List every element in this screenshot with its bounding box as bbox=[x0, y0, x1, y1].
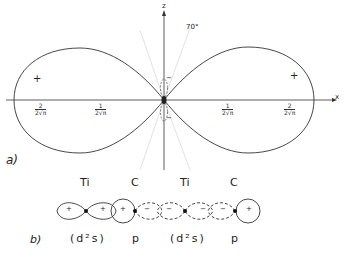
atom-label: C bbox=[131, 176, 139, 189]
tick-label: 22√π bbox=[284, 103, 295, 116]
nucleus bbox=[162, 96, 167, 104]
left-lobe bbox=[14, 48, 164, 153]
tick-label: 12√π bbox=[222, 103, 233, 116]
lobe-sign: + bbox=[120, 205, 126, 213]
x-axis-label: x bbox=[335, 93, 339, 101]
orbital-label: (d²s) bbox=[70, 232, 106, 245]
atom-label: C bbox=[230, 176, 238, 189]
atom-label: Ti bbox=[80, 176, 89, 189]
z-axis-label: z bbox=[162, 2, 166, 10]
lobe-sign: + bbox=[246, 205, 252, 213]
orbital-label: (d²s) bbox=[170, 232, 206, 245]
orbital-label: p bbox=[231, 232, 238, 245]
orbital-diagram bbox=[0, 0, 344, 257]
tick-label: 12√π bbox=[95, 103, 106, 116]
atom-label: Ti bbox=[180, 176, 189, 189]
panel-b-label: b) bbox=[30, 233, 41, 246]
tick-label: 22√π bbox=[35, 103, 46, 116]
chain-nuclei bbox=[84, 209, 237, 213]
lobe-sign: + bbox=[100, 205, 106, 213]
small-lobe-top-sign: − bbox=[166, 74, 172, 82]
lobe-sign: − bbox=[200, 205, 206, 213]
lobe-sign: − bbox=[144, 205, 150, 213]
small-lobe-bottom-sign: − bbox=[166, 114, 172, 122]
panel-a-label: a) bbox=[6, 153, 18, 167]
lobe-sign: + bbox=[66, 205, 72, 213]
lobe-sign: − bbox=[220, 205, 226, 213]
lobe-sign: − bbox=[166, 205, 172, 213]
angle-label: 70° bbox=[186, 23, 198, 31]
z-axis-arrow bbox=[162, 10, 166, 16]
orbital-label: p bbox=[132, 232, 139, 245]
left-lobe-sign: + bbox=[33, 73, 41, 84]
right-lobe-sign: + bbox=[290, 70, 298, 81]
